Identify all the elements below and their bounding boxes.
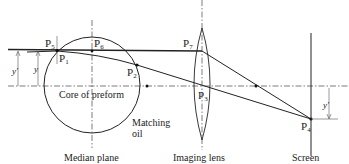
label-core: Core of preform (59, 89, 124, 100)
label-screen: Screen (292, 152, 319, 163)
label-matching-oil-1: Matching (132, 117, 170, 128)
undeviated-ray (8, 50, 202, 52)
label-median-plane: Median plane (64, 152, 119, 163)
label-p7: P7 (183, 37, 193, 51)
point-p6 (91, 50, 94, 53)
label-p5: P5 (45, 37, 55, 51)
point-p2 (135, 63, 138, 66)
label-imaging-lens: Imaging lens (173, 152, 225, 163)
label-p3: P3 (198, 89, 208, 103)
focal-point-left (146, 85, 149, 88)
label-p1: P1 (59, 52, 69, 66)
label-p2: P2 (127, 66, 137, 80)
focal-point-right (255, 85, 258, 88)
label-y-left: y (33, 64, 38, 74)
label-y-prime-right: y' (322, 100, 330, 110)
label-y-prime-left: y' (11, 66, 19, 76)
label-matching-oil-2: oil (132, 128, 143, 139)
label-p4: P4 (301, 120, 311, 134)
ray-p2-p4 (137, 65, 311, 119)
ray-diagram: P5 P1 P6 P2 P7 P3 P4 y' y y' Core of pre… (0, 0, 349, 164)
label-p6: P6 (94, 37, 104, 51)
refracted-ray-core (27, 51, 137, 65)
